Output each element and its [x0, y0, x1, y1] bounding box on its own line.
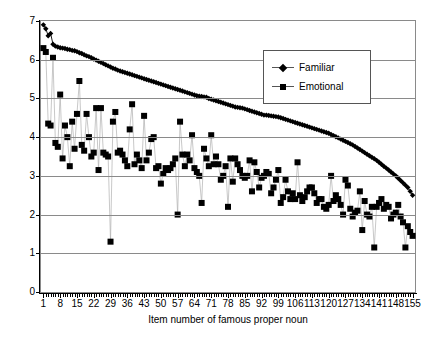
x-tick-mark-82: [238, 293, 239, 297]
x-tick-mark-7: [58, 293, 59, 297]
x-tick-mark-135: [365, 293, 366, 297]
data-point: [223, 163, 229, 169]
data-point: [342, 177, 348, 183]
data-point: [278, 200, 284, 206]
x-tick-mark-115: [317, 293, 318, 297]
x-tick-mark-75: [221, 293, 222, 297]
x-tick-mark-27: [106, 293, 107, 297]
x-tick-mark-53: [168, 293, 169, 297]
x-tick-mark-18: [84, 293, 85, 297]
data-point: [170, 161, 176, 167]
x-tick-mark-16: [79, 293, 80, 297]
data-point: [402, 244, 408, 250]
x-tick-mark-6: [55, 293, 56, 297]
x-tick-mark-123: [336, 293, 337, 297]
data-point: [74, 111, 80, 117]
x-tick-mark-129: [350, 293, 351, 297]
y-tick-label-7: 7: [1, 16, 35, 26]
x-tick-mark-69: [206, 293, 207, 297]
x-tick-mark-153: [408, 293, 409, 297]
x-tick-mark-62: [190, 293, 191, 297]
legend-label-emotional: Emotional: [299, 82, 343, 92]
x-tick-mark-32: [118, 293, 119, 297]
data-point: [225, 204, 231, 210]
x-tick-mark-109: [302, 293, 303, 297]
data-point: [177, 119, 183, 125]
y-tick-label-6: 6: [1, 55, 35, 65]
data-point: [134, 152, 140, 158]
x-tick-mark-5: [53, 293, 54, 297]
x-tick-mark-41: [139, 293, 140, 297]
data-point: [69, 119, 75, 125]
data-point: [268, 190, 274, 196]
x-tick-mark-52: [166, 293, 167, 297]
data-point: [283, 177, 289, 183]
x-tick-mark-108: [300, 293, 301, 297]
data-point: [72, 146, 78, 152]
data-point: [55, 144, 61, 150]
x-tick-mark-125: [341, 293, 342, 297]
x-tick-mark-112: [310, 293, 311, 297]
x-tick-mark-31: [115, 293, 116, 297]
x-tick-mark-4: [51, 293, 52, 297]
x-tick-mark-110: [305, 293, 306, 297]
data-point: [155, 163, 161, 169]
data-point: [143, 157, 149, 163]
data-point: [184, 152, 190, 158]
data-point: [290, 190, 296, 196]
x-tick-mark-23: [96, 293, 97, 297]
data-point: [275, 167, 281, 173]
data-point: [199, 200, 205, 206]
x-tick-mark-119: [326, 293, 327, 297]
x-tick-mark-126: [343, 293, 344, 297]
x-tick-mark-21: [91, 293, 92, 297]
x-tick-mark-151: [403, 293, 404, 297]
x-tick-mark-95: [269, 293, 270, 297]
x-tick-mark-67: [202, 293, 203, 297]
data-point: [354, 208, 360, 214]
x-tick-mark-136: [367, 293, 368, 297]
y-tick-label-1: 1: [1, 248, 35, 258]
x-tick-mark-139: [374, 293, 375, 297]
data-point: [79, 142, 85, 148]
x-tick-mark-38: [132, 293, 133, 297]
x-tick-mark-132: [357, 293, 358, 297]
x-tick-mark-59: [182, 293, 183, 297]
y-tick-label-3: 3: [1, 171, 35, 181]
data-point: [302, 194, 308, 200]
data-point: [249, 188, 255, 194]
x-tick-mark-149: [398, 293, 399, 297]
x-tick-mark-98: [276, 293, 277, 297]
gridline-y-1: [41, 253, 415, 254]
x-tick-mark-10: [65, 293, 66, 297]
x-tick-mark-51: [163, 293, 164, 297]
x-tick-mark-49: [158, 293, 159, 297]
data-point: [251, 159, 257, 165]
x-tick-mark-24: [99, 293, 100, 297]
data-point: [203, 155, 209, 161]
y-tick-label-0: 0: [1, 287, 35, 297]
x-tick-mark-65: [197, 293, 198, 297]
data-point: [230, 179, 236, 185]
x-tick-mark-130: [353, 293, 354, 297]
x-tick-mark-145: [389, 293, 390, 297]
gridline-y-3: [41, 176, 415, 177]
data-point: [256, 184, 262, 190]
x-tick-mark-86: [247, 293, 248, 297]
x-tick-mark-144: [386, 293, 387, 297]
x-tick-mark-100: [281, 293, 282, 297]
y-axis-ticks: 01234567: [0, 0, 40, 293]
data-point: [43, 49, 49, 55]
chart-figure: 01234567 Mean rating Item number of famo…: [0, 0, 436, 337]
x-tick-mark-26: [103, 293, 104, 297]
x-tick-mark-73: [216, 293, 217, 297]
x-axis-title: Item number of famous proper noun: [40, 314, 416, 325]
x-tick-mark-42: [142, 293, 143, 297]
x-tick-mark-121: [331, 293, 332, 297]
x-tick-mark-9: [63, 293, 64, 297]
data-point: [371, 244, 377, 250]
x-tick-mark-117: [322, 293, 323, 297]
x-tick-mark-39: [135, 293, 136, 297]
x-tick-mark-104: [290, 293, 291, 297]
data-point: [215, 161, 221, 167]
